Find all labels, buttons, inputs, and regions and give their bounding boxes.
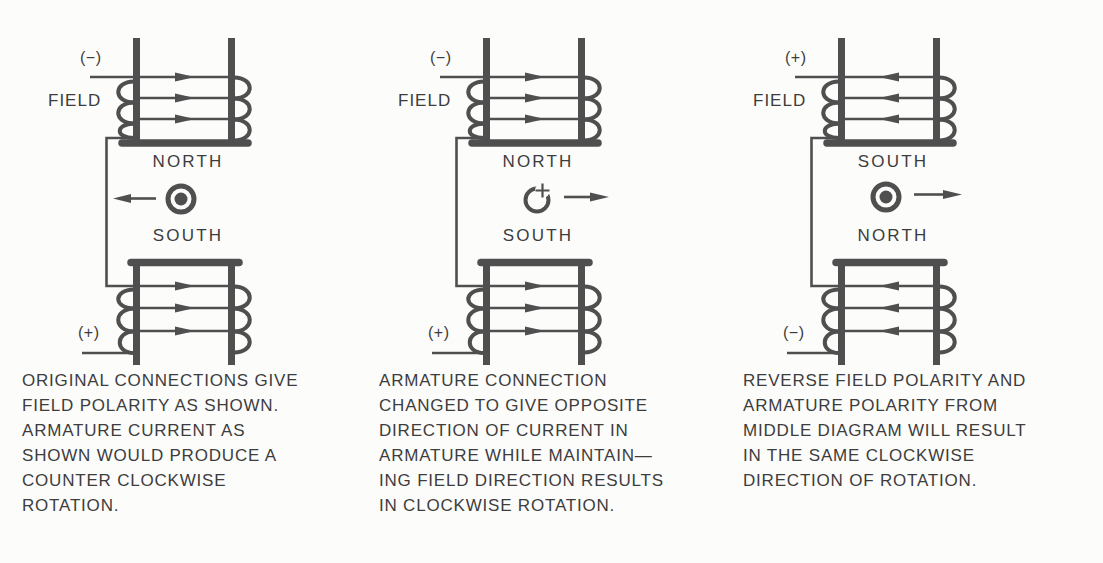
pole-bottom-label: SOUTH — [503, 226, 574, 245]
motion-arrow-right-icon — [564, 193, 609, 202]
motor-polarity-diagram-middle: (−) FIELD NORTH SOUTH (+) — [368, 30, 718, 370]
polarity-bottom-label: (−) — [783, 324, 805, 341]
current-arrow-left-icon — [879, 115, 899, 124]
current-arrow-right-icon — [175, 73, 195, 82]
current-arrow-left-icon — [879, 304, 899, 313]
current-arrow-right-icon — [525, 327, 545, 336]
panel-right: (+) FIELD SOUTH NORTH (−) REVERSE FIELD … — [737, 0, 1097, 563]
caption-right: REVERSE FIELD POLARITY AND ARMATURE POLA… — [743, 368, 1088, 493]
polarity-top-label: (−) — [80, 49, 102, 66]
current-arrow-left-icon — [879, 94, 899, 103]
polarity-bottom-label: (+) — [428, 324, 450, 341]
polarity-bottom-label: (+) — [78, 324, 100, 341]
panel-left: (−) FIELD NORTH SOUTH (+) ORIGINAL CONNE… — [18, 0, 368, 563]
current-arrow-left-icon — [879, 73, 899, 82]
armature-out-of-page-icon — [168, 186, 194, 212]
pole-bottom-label: NORTH — [857, 226, 928, 245]
current-arrow-right-icon — [525, 115, 545, 124]
motor-polarity-diagram-right: (+) FIELD SOUTH NORTH (−) — [723, 30, 1073, 370]
panel-middle: (−) FIELD NORTH SOUTH (+) ARMATURE CONNE… — [368, 0, 730, 563]
motion-arrow-right-icon — [914, 190, 962, 199]
current-arrow-right-icon — [525, 304, 545, 313]
current-arrow-right-icon — [175, 327, 195, 336]
caption-left: ORIGINAL CONNECTIONS GIVE FIELD POLARITY… — [22, 368, 367, 518]
current-arrow-right-icon — [525, 282, 545, 291]
current-arrow-left-icon — [879, 282, 899, 291]
pole-top-label: SOUTH — [858, 152, 929, 171]
current-arrow-right-icon — [525, 73, 545, 82]
armature-out-of-page-icon — [873, 184, 899, 210]
current-arrow-right-icon — [525, 94, 545, 103]
current-arrow-right-icon — [175, 282, 195, 291]
motion-arrow-left-icon — [113, 194, 156, 203]
pole-top-label: NORTH — [502, 152, 573, 171]
current-arrow-right-icon — [175, 94, 195, 103]
field-label: FIELD — [398, 91, 451, 110]
polarity-top-label: (−) — [430, 49, 452, 66]
current-arrow-left-icon — [879, 327, 899, 336]
field-label: FIELD — [48, 91, 101, 110]
pole-bottom-label: SOUTH — [153, 226, 224, 245]
motor-polarity-diagram-left: (−) FIELD NORTH SOUTH (+) — [18, 30, 368, 370]
current-arrow-right-icon — [175, 115, 195, 124]
pole-top-label: NORTH — [152, 152, 223, 171]
current-arrow-right-icon — [175, 304, 195, 313]
polarity-top-label: (+) — [785, 49, 807, 66]
armature-into-page-icon — [526, 183, 551, 212]
field-label: FIELD — [753, 91, 806, 110]
caption-middle: ARMATURE CONNECTION CHANGED TO GIVE OPPO… — [379, 368, 724, 518]
